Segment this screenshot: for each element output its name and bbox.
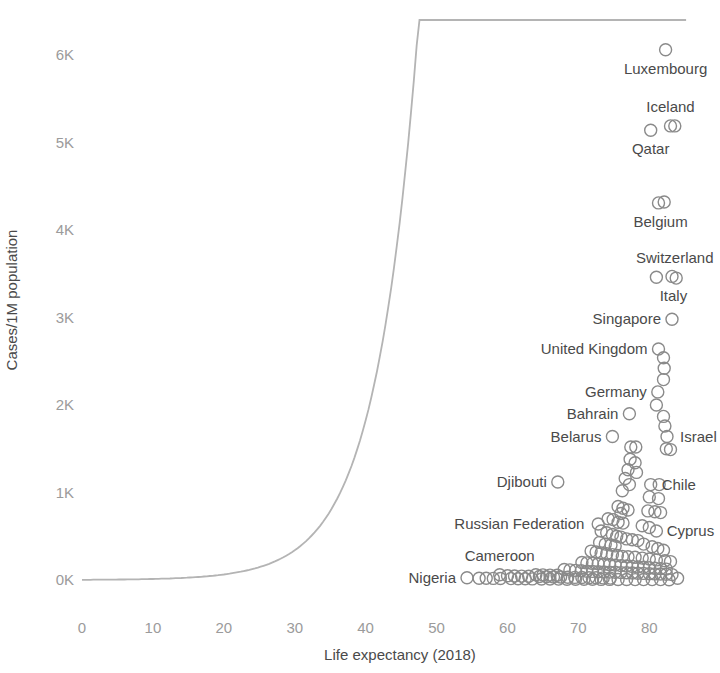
point-label-luxembourg: Luxembourg [624,60,707,77]
x-tick-label: 10 [145,619,162,636]
x-tick-label: 40 [357,619,374,636]
data-point [653,493,665,505]
data-point [461,572,473,584]
trend-line-path [82,20,686,580]
x-tick-label: 80 [641,619,658,636]
data-point [660,44,672,56]
y-tick-label: 3K [56,309,74,326]
point-label-nigeria: Nigeria [408,569,456,586]
x-axis-title: Life expectancy (2018) [324,646,476,663]
point-label-cameroon: Cameroon [465,547,535,564]
point-label-switzerland: Switzerland [636,249,714,266]
data-point [643,522,655,534]
point-label-iceland: Iceland [646,98,694,115]
point-label-russian-federation: Russian Federation [454,515,584,532]
point-label-cyprus: Cyprus [667,522,715,539]
point-label-bahrain: Bahrain [567,405,619,422]
data-point [658,374,670,386]
trend-line [82,20,686,580]
x-tick-label: 0 [78,619,86,636]
y-tick-label: 4K [56,221,74,238]
x-tick-label: 60 [499,619,516,636]
data-point [623,408,635,420]
data-point [670,272,682,284]
data-point [666,313,678,325]
point-label-djibouti: Djibouti [497,473,547,490]
data-point [606,431,618,443]
scatter-chart: 0K1K2K3K4K5K6K 01020304050607080 Luxembo… [0,0,720,673]
y-tick-label: 1K [56,484,74,501]
x-axis-tick-labels: 01020304050607080 [78,619,658,636]
y-tick-label: 0K [56,571,74,588]
y-axis-tick-labels: 0K1K2K3K4K5K6K [56,46,74,588]
x-tick-label: 20 [215,619,232,636]
data-point [650,271,662,283]
point-label-qatar: Qatar [632,140,670,157]
data-point [645,124,657,136]
data-point [480,572,492,584]
y-tick-label: 2K [56,396,74,413]
point-label-united-kingdom: United Kingdom [541,340,648,357]
data-point [512,573,524,585]
point-label-germany: Germany [585,383,647,400]
y-tick-label: 5K [56,134,74,151]
point-annotations: LuxembourgIcelandQatarBelgiumSwitzerland… [408,60,716,586]
data-point [616,485,628,497]
data-point [519,573,531,585]
point-label-israel: Israel [680,428,717,445]
data-point [650,525,662,537]
plot-area: 0K1K2K3K4K5K6K 01020304050607080 Luxembo… [0,0,720,673]
point-label-singapore: Singapore [593,310,661,327]
x-tick-label: 70 [570,619,587,636]
data-point [652,386,664,398]
x-tick-label: 50 [428,619,445,636]
point-label-italy: Italy [660,287,688,304]
data-point [650,399,662,411]
point-label-chile: Chile [662,476,696,493]
point-label-belarus: Belarus [551,428,602,445]
point-label-belgium: Belgium [633,213,687,230]
x-tick-label: 30 [286,619,303,636]
y-tick-label: 6K [56,46,74,63]
data-point [552,476,564,488]
y-axis-title: Cases/1M population [3,230,20,371]
data-point [653,343,665,355]
data-point [473,572,485,584]
